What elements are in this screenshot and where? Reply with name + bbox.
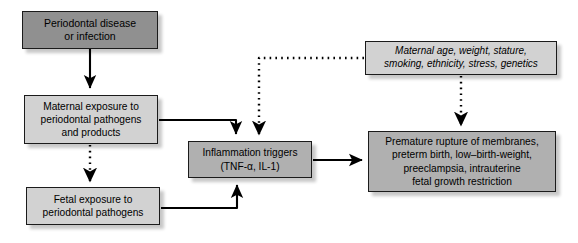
node-fetal-exposure-label: Fetal exposure to periodontal pathogens: [39, 193, 148, 219]
node-inflammation-triggers-label: Inflammation triggers (TNF-α, IL-1): [198, 146, 301, 172]
edge-modifiers-to-inflammation: [259, 58, 364, 134]
flowchart-diagram: Periodontal disease or infection Materna…: [0, 0, 578, 243]
node-adverse-outcomes-label: Premature rupture of membranes, preterm …: [381, 135, 542, 187]
node-adverse-outcomes: Premature rupture of membranes, preterm …: [368, 131, 556, 192]
node-maternal-modifiers: Maternal age, weight, stature, smoking, …: [365, 41, 557, 75]
edge-maternal-to-inflammation: [159, 120, 236, 134]
node-maternal-exposure-label: Maternal exposure to periodontal pathoge…: [37, 100, 146, 139]
node-inflammation-triggers: Inflammation triggers (TNF-α, IL-1): [188, 141, 312, 178]
node-periodontal-disease-label: Periodontal disease or infection: [40, 17, 140, 44]
node-maternal-exposure: Maternal exposure to periodontal pathoge…: [24, 95, 158, 144]
node-maternal-modifiers-label: Maternal age, weight, stature, smoking, …: [380, 45, 542, 71]
node-periodontal-disease: Periodontal disease or infection: [22, 11, 158, 49]
edge-fetal-to-inflammation: [161, 185, 237, 208]
node-fetal-exposure: Fetal exposure to periodontal pathogens: [26, 187, 160, 225]
